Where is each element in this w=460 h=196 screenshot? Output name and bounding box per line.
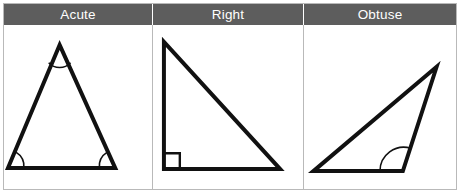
acute-right-angle-arc xyxy=(99,152,107,168)
comparison-table: Acute Right Obtuse xyxy=(3,3,457,190)
acute-left-angle-arc xyxy=(16,152,24,168)
acute-triangle-shape xyxy=(8,45,115,168)
table-body-row xyxy=(4,25,456,189)
acute-triangle-diagram xyxy=(4,25,152,189)
right-triangle-shape xyxy=(164,42,280,169)
right-angle-square-icon xyxy=(164,153,180,169)
cell-acute-triangle xyxy=(4,25,153,189)
column-header-right: Right xyxy=(153,4,304,25)
column-header-acute: Acute xyxy=(4,4,153,25)
obtuse-triangle-diagram xyxy=(304,25,456,189)
obtuse-triangle-shape xyxy=(313,67,436,171)
triangle-classification-figure: Acute Right Obtuse xyxy=(0,0,460,196)
column-header-obtuse: Obtuse xyxy=(304,4,456,25)
cell-right-triangle xyxy=(153,25,304,189)
cell-obtuse-triangle xyxy=(304,25,456,189)
right-triangle-diagram xyxy=(153,25,303,189)
table-header-row: Acute Right Obtuse xyxy=(4,4,456,25)
